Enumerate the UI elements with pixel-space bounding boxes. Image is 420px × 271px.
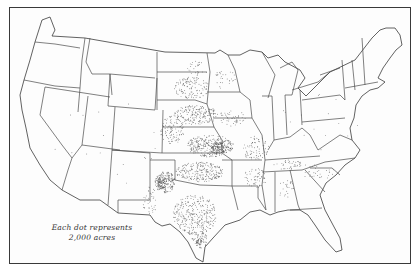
id-nv-line	[45, 87, 110, 97]
ny-ne-line	[342, 60, 345, 100]
nc-sc-line	[310, 168, 340, 175]
ky-tn-line	[265, 156, 320, 160]
nv-ca-line	[40, 87, 72, 158]
al-ga-line	[290, 170, 300, 210]
legend-line-1: Each dot represents	[32, 223, 152, 233]
oh-pa-line	[300, 90, 302, 125]
ma-line	[345, 82, 378, 88]
ok-tx-line	[150, 160, 232, 186]
az-nm-line	[108, 150, 112, 205]
pa-ny-line	[302, 95, 345, 100]
id-wa-line	[78, 38, 85, 112]
id-mt-line	[86, 38, 112, 95]
co-box	[112, 107, 163, 153]
wa-or-line	[35, 42, 80, 48]
mn-wi-line	[228, 55, 250, 100]
in-oh-line	[285, 95, 287, 135]
il-in-line	[262, 96, 274, 150]
legend-line-2: 2,000 acres	[32, 233, 152, 243]
ut-az-line	[82, 145, 120, 150]
pa-md-line	[302, 118, 345, 122]
dakotas-mn-line	[207, 53, 238, 210]
nv-ut-line	[72, 96, 88, 158]
vt-nh-line	[352, 60, 355, 90]
mt-wy-line	[110, 74, 155, 78]
sd-ne-line	[157, 100, 207, 104]
ky-oh-line	[274, 128, 318, 150]
ga-sc-line	[305, 170, 325, 192]
or-ca-line	[24, 80, 80, 88]
michigan	[262, 52, 298, 98]
ga-fl-line	[290, 208, 322, 210]
ca-az-line	[62, 158, 72, 190]
nm-box	[112, 150, 150, 213]
me-line	[362, 38, 365, 85]
va-line	[318, 135, 352, 150]
dot-layer	[55, 61, 358, 249]
wy-box	[108, 74, 157, 110]
map-legend: Each dot represents 2,000 acres	[32, 223, 152, 243]
